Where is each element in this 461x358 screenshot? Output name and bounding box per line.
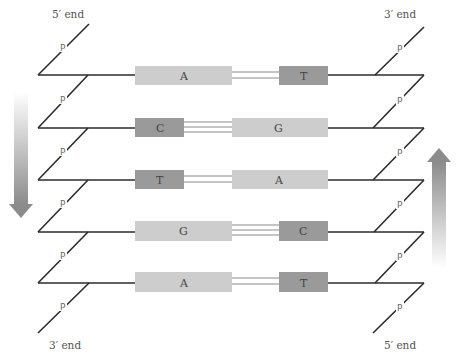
right-sugar-phosphate-backbone (328, 27, 424, 333)
svg-text:T: T (156, 174, 164, 187)
right-strand-direction-arrow-up-icon (427, 148, 451, 268)
bottom-right-end-label: 5′ end (384, 339, 416, 351)
svg-text:A: A (179, 70, 189, 83)
svg-text:P: P (60, 95, 66, 105)
base-pair-1: A T (135, 66, 328, 85)
left-phosphate-labels: P P P P P P (59, 42, 67, 312)
svg-text:P: P (397, 44, 403, 54)
svg-text:P: P (60, 147, 66, 157)
left-sugar-phosphate-backbone (38, 24, 135, 333)
top-right-end-label: 3′ end (384, 8, 416, 20)
svg-text:P: P (397, 200, 403, 210)
svg-text:T: T (300, 277, 308, 290)
svg-text:P: P (397, 303, 403, 313)
right-phosphate-labels: P P P P P P (396, 43, 404, 313)
base-pair-2: C G (135, 118, 328, 137)
svg-text:C: C (156, 122, 164, 135)
svg-text:P: P (60, 251, 66, 261)
svg-text:P: P (60, 199, 66, 209)
svg-text:G: G (179, 225, 188, 238)
svg-text:P: P (60, 302, 66, 312)
base-pair-5: A T (135, 272, 328, 292)
svg-text:P: P (60, 43, 66, 53)
svg-text:C: C (299, 225, 307, 238)
left-strand-direction-arrow-down-icon (9, 92, 33, 218)
svg-text:P: P (397, 252, 403, 262)
svg-text:P: P (397, 148, 403, 158)
dna-diagram: 5′ end 3′ end 3′ end 5′ end P P P P P (0, 0, 461, 358)
svg-text:A: A (179, 277, 189, 290)
svg-text:A: A (274, 174, 284, 187)
svg-text:G: G (274, 122, 283, 135)
top-left-end-label: 5′ end (52, 8, 84, 20)
base-pair-3: T A (135, 170, 328, 189)
svg-text:P: P (397, 96, 403, 106)
bottom-left-end-label: 3′ end (49, 339, 81, 351)
svg-text:T: T (300, 70, 308, 83)
base-pair-4: G C (135, 221, 328, 241)
